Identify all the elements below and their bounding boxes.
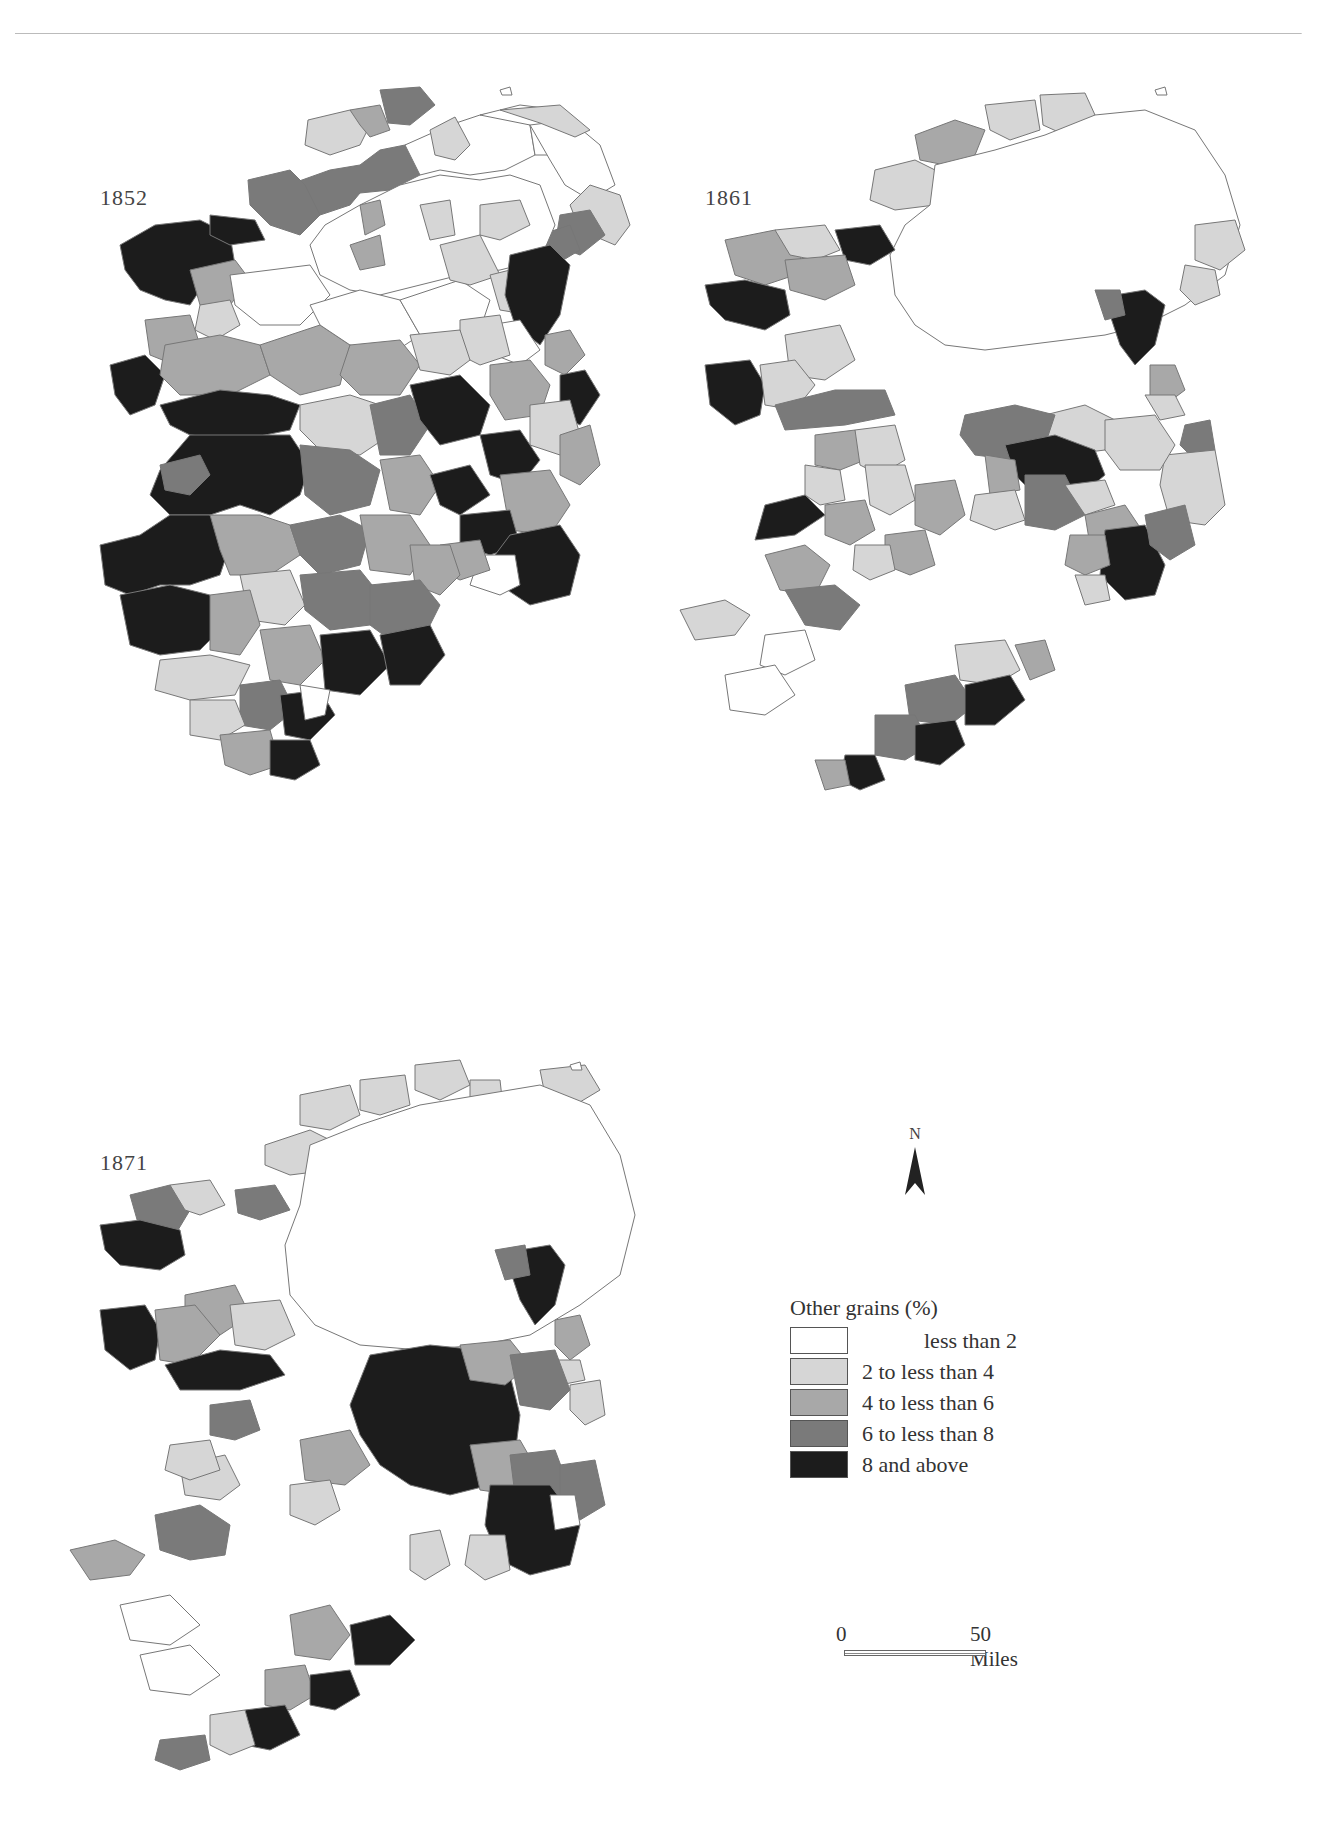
- year-label: 1861: [705, 185, 753, 211]
- legend-label: 4 to less than 6: [862, 1390, 994, 1416]
- year-label: 1852: [100, 185, 148, 211]
- legend-label: 6 to less than 8: [862, 1421, 994, 1447]
- legend-label: less than 2: [862, 1328, 1017, 1354]
- legend-swatch: [790, 1358, 848, 1385]
- scale-end-label: 50 Miles: [970, 1622, 1030, 1672]
- scale-bar-graphic: [844, 1650, 986, 1656]
- legend-item: 8 and above: [790, 1449, 1080, 1480]
- ireland-map-1852: [60, 75, 680, 855]
- map-1861: 1861: [665, 75, 1285, 855]
- year-label: 1871: [100, 1150, 148, 1176]
- legend-item: 4 to less than 6: [790, 1387, 1080, 1418]
- map-1852: 1852: [60, 75, 680, 855]
- legend-label: 2 to less than 4: [862, 1359, 994, 1385]
- legend-item: 2 to less than 4: [790, 1356, 1080, 1387]
- legend-item: 6 to less than 8: [790, 1418, 1080, 1449]
- legend-swatch: [790, 1389, 848, 1416]
- header-rule: [15, 33, 1302, 34]
- legend-title: Other grains (%): [790, 1295, 1080, 1321]
- legend: Other grains (%) less than 2 2 to less t…: [790, 1295, 1080, 1480]
- north-label: N: [895, 1125, 935, 1143]
- ireland-map-1871: [60, 1045, 680, 1825]
- scale-bar: 0 50 Miles: [830, 1622, 1030, 1662]
- scale-start-label: 0: [836, 1622, 847, 1647]
- map-1871: 1871: [60, 1045, 680, 1825]
- legend-swatch: [790, 1420, 848, 1447]
- ireland-map-1861: [665, 75, 1285, 855]
- north-arrow: N: [895, 1125, 935, 1205]
- legend-item: less than 2: [790, 1325, 1080, 1356]
- legend-swatch: [790, 1451, 848, 1478]
- legend-swatch: [790, 1327, 848, 1354]
- legend-label: 8 and above: [862, 1452, 968, 1478]
